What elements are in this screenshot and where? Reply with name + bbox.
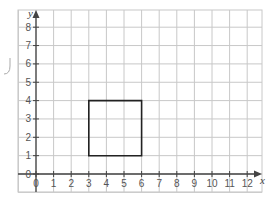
y-tick-label: 5: [25, 77, 31, 88]
x-tick-label: 10: [206, 178, 218, 189]
y-tick-label: 4: [25, 95, 31, 106]
x-tick-label: 1: [51, 178, 57, 189]
y-tick-label: 8: [25, 22, 31, 33]
x-tick-label: 9: [192, 178, 198, 189]
shapes: [89, 101, 142, 156]
y-tick-label: 1: [25, 150, 31, 161]
x-tick-label: 3: [86, 178, 92, 189]
x-tick-label: 4: [104, 178, 110, 189]
bracket-icon: [4, 58, 10, 74]
x-tick-label: 0: [33, 178, 39, 189]
x-tick-label: 12: [242, 178, 254, 189]
x-tick-label: 7: [156, 178, 162, 189]
y-axis-label: y: [27, 7, 33, 19]
y-tick-label: 0: [25, 169, 31, 180]
y-tick-label: 3: [25, 113, 31, 124]
tick-labels: 0123456789101112012345678: [25, 22, 253, 189]
coordinate-grid: 0123456789101112012345678 y x: [0, 0, 269, 202]
x-tick-label: 8: [174, 178, 180, 189]
y-tick-label: 2: [25, 132, 31, 143]
y-axis-arrow-icon: [33, 10, 40, 18]
x-tick-label: 5: [121, 178, 127, 189]
y-tick-label: 6: [25, 58, 31, 69]
y-tick-label: 7: [25, 40, 31, 51]
x-tick-label: 11: [224, 178, 235, 189]
x-axis-label: x: [259, 174, 265, 186]
x-tick-label: 2: [68, 178, 74, 189]
square-shape: [89, 101, 142, 156]
x-tick-label: 6: [139, 178, 145, 189]
